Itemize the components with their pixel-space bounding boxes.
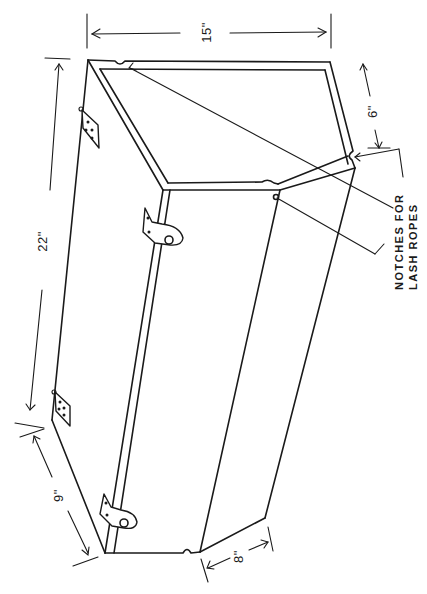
box-drawing xyxy=(0,0,427,594)
label-9in: 9" xyxy=(51,489,66,502)
label-8in: 8" xyxy=(231,550,246,563)
label-15in: 15" xyxy=(199,22,214,43)
hasp-middle xyxy=(143,208,183,245)
callout-line2: LASH ROPES xyxy=(406,193,420,290)
label-22in: 22" xyxy=(35,231,50,252)
callout-line1: NOTCHES FOR xyxy=(392,193,406,290)
hinge-bottom xyxy=(52,390,70,426)
hasp-bottom xyxy=(100,494,137,528)
notches-callout: NOTCHES FOR LASH ROPES xyxy=(392,193,420,290)
lid-frame xyxy=(88,60,355,190)
label-6in: 6" xyxy=(365,105,380,118)
